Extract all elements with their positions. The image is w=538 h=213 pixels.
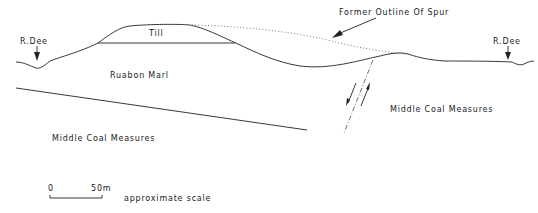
river-right-label: R.Dee — [493, 37, 521, 46]
fault-line — [344, 60, 373, 133]
former-outline-pointer-line — [338, 18, 376, 34]
former-outline-dotted-line — [192, 25, 405, 54]
arrow-head-icon — [332, 30, 343, 38]
ground-surface-line — [16, 24, 534, 68]
scale-end-label: 50m — [91, 184, 111, 193]
ruabon-marl-label: Ruabon Marl — [110, 71, 169, 80]
fault-arrow-up-icon — [366, 82, 370, 90]
former-outline-label: Former Outline Of Spur — [339, 8, 449, 17]
middle-coal-left-label: Middle Coal Measures — [52, 134, 155, 143]
river-left-label: R.Dee — [20, 37, 48, 46]
cross-section-diagram: R.Dee R.Dee Till Ruabon Marl Middle Coal… — [0, 0, 538, 213]
till-label: Till — [148, 29, 164, 38]
middle-coal-right-label: Middle Coal Measures — [390, 105, 493, 114]
scale-start-label: 0 — [48, 184, 54, 193]
scale-caption: approximate scale — [124, 194, 211, 203]
marl-coal-boundary-line — [16, 88, 307, 130]
river-left-arrow-icon — [34, 52, 40, 61]
river-right-arrow-icon — [505, 52, 511, 60]
scale-bar — [50, 195, 102, 198]
